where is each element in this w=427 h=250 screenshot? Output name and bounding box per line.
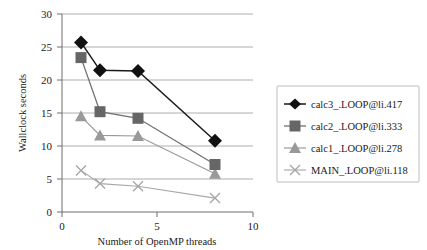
series-calc3-line	[81, 42, 215, 140]
gridlines	[62, 14, 253, 179]
square-marker-icon	[290, 121, 301, 132]
x-tick-label-10: 10	[248, 220, 260, 232]
legend-label-calc1: calc1_.LOOP@li.278	[311, 143, 402, 154]
y-tick-label-10: 10	[41, 140, 53, 152]
axes	[57, 14, 253, 217]
series-calc1-markers	[75, 110, 221, 178]
wallclock-seconds-line-chart: 30 25 20 15 10 5 0 0 5 10 Number of Open…	[0, 0, 427, 250]
y-tick-label-15: 15	[41, 107, 53, 119]
y-tick-label-5: 5	[47, 173, 53, 185]
y-tick-label-25: 25	[41, 41, 53, 53]
series-main-markers	[76, 165, 220, 203]
y-tick-labels: 30 25 20 15 10 5 0	[41, 8, 53, 218]
series-main-loop-118	[76, 165, 220, 203]
series-calc1-loop-278	[75, 110, 221, 178]
y-tick-label-0: 0	[47, 206, 53, 218]
x-axis-title: Number of OpenMP threads	[98, 236, 217, 247]
x-tick-labels: 0 5 10	[59, 220, 259, 232]
chart-figure: 30 25 20 15 10 5 0 0 5 10 Number of Open…	[0, 0, 427, 250]
chart-legend: calc3_.LOOP@li.417 calc2_.LOOP@li.333 ca…	[277, 86, 419, 182]
legend-label-calc3: calc3_.LOOP@li.417	[311, 99, 402, 110]
y-tick-label-20: 20	[41, 74, 53, 86]
x-tick-label-0: 0	[59, 220, 65, 232]
y-axis-title: Wallclock seconds	[17, 74, 28, 152]
x-tick-label-5: 5	[154, 220, 160, 232]
legend-label-calc2: calc2_.LOOP@li.333	[311, 121, 402, 132]
legend-label-main: MAIN_.LOOP@li.118	[311, 165, 408, 176]
y-tick-label-30: 30	[41, 8, 53, 20]
